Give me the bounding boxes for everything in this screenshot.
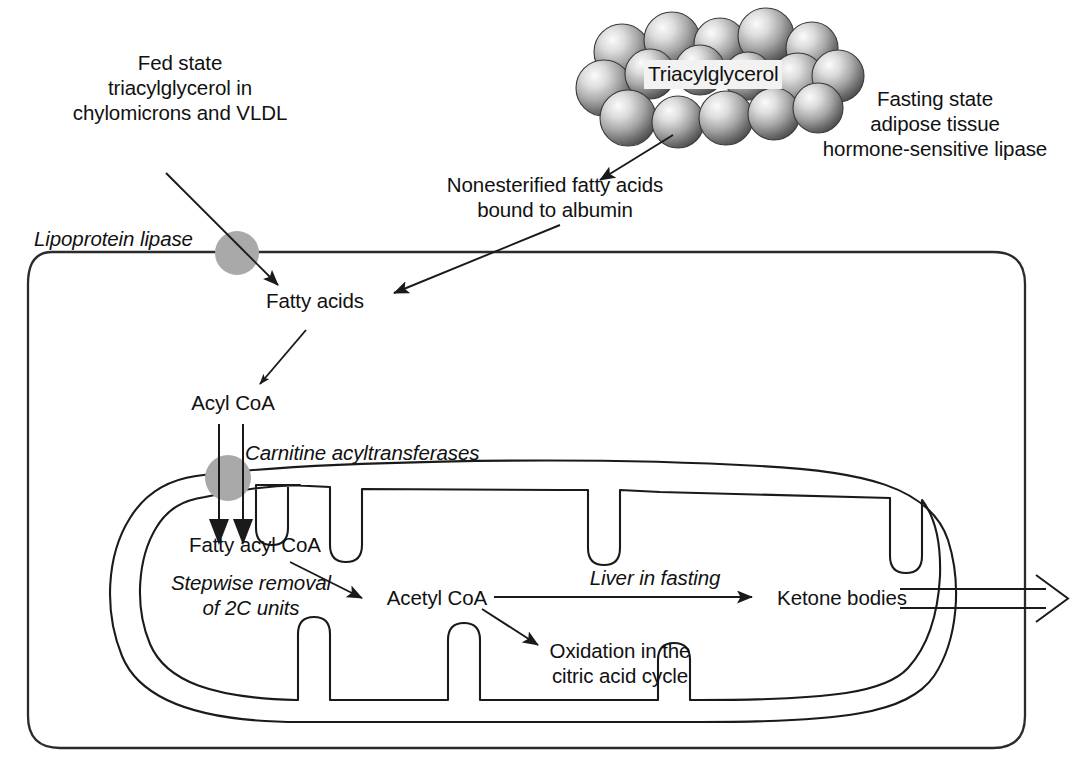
arrow-nefa-to-fatty-acids: [394, 225, 560, 293]
label-ketone-bodies: Ketone bodies: [762, 585, 922, 610]
label-acyl-coa: Acyl CoA: [168, 390, 298, 415]
label-stepwise-removal: Stepwise removal of 2C units: [136, 570, 366, 620]
label-liver-in-fasting: Liver in fasting: [560, 565, 750, 590]
label-oxidation-citric-acid-cycle: Oxidation in the citric acid cycle: [520, 638, 720, 688]
arrow-ketone-bodies-export: [900, 575, 1068, 622]
figure-canvas: Fed state triacylglycerol in chylomicron…: [0, 0, 1077, 780]
label-lipoprotein-lipase: Lipoprotein lipase: [34, 226, 264, 251]
label-triacylglycerol: Triacylglycerol: [644, 60, 782, 89]
label-carnitine-acyltransferases: Carnitine acyltransferases: [245, 440, 565, 465]
label-fatty-acids: Fatty acids: [245, 288, 385, 313]
label-nefa: Nonesterified fatty acids bound to album…: [430, 172, 680, 222]
label-fed-state: Fed state triacylglycerol in chylomicron…: [30, 50, 330, 125]
label-fatty-acyl-coa: Fatty acyl CoA: [155, 532, 355, 557]
label-acetyl-coa: Acetyl CoA: [372, 585, 502, 610]
label-fasting-state: Fasting state adipose tissue hormone-sen…: [800, 86, 1070, 161]
arrow-fatty-acids-to-acyl-coa: [260, 330, 306, 384]
